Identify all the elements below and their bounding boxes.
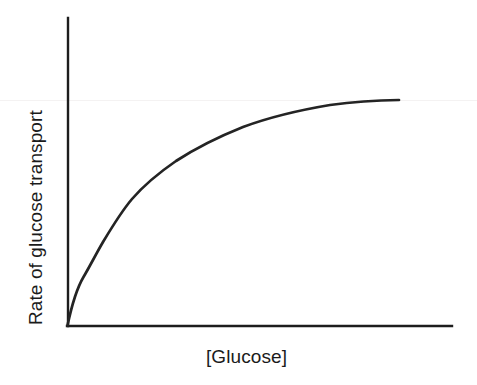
x-axis-label: [Glucose]	[0, 347, 477, 366]
glucose-transport-saturation-curve	[68, 100, 400, 326]
y-axis-label: Rate of glucose transport	[26, 15, 56, 325]
chart-figure: Rate of glucose transport [Glucose]	[0, 0, 477, 385]
plot-area	[0, 0, 477, 385]
